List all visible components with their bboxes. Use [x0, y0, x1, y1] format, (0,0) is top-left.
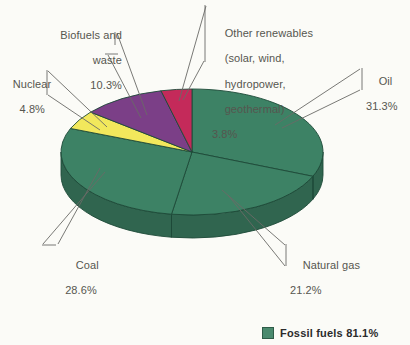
label-oil-line1: Oil: [379, 75, 393, 87]
label-biofuels-line1: Biofuels and: [60, 29, 122, 41]
label-renewables-pct: 3.8%: [212, 128, 342, 141]
label-coal-pct: 28.6%: [46, 284, 116, 297]
label-nuclear-line1: Nuclear: [13, 78, 52, 90]
legend: Fossil fuels 81.1%: [262, 327, 378, 339]
label-coal: Coal 28.6%: [46, 246, 116, 322]
label-gas-pct: 21.2%: [290, 284, 380, 297]
legend-swatch-fossil-fuels: [262, 327, 274, 339]
label-natural-gas: Natural gas 21.2%: [290, 246, 380, 322]
label-renewables-l2: (solar, wind,: [225, 52, 285, 64]
label-other-renewables: Other renewables Other renewables (solar…: [212, 2, 342, 166]
label-nuclear-pct: 4.8%: [0, 103, 45, 116]
pie-chart-figure: Biofuels and waste 10.3% Nuclear 4.8% Ot…: [0, 0, 410, 345]
label-coal-line1: Coal: [76, 259, 99, 271]
label-gas-line1: Natural gas: [303, 259, 360, 271]
label-oil-pct: 31.3%: [366, 100, 410, 113]
label-renewables-l3: hydropower,: [225, 78, 286, 90]
label-renewables-l4: geothermal): [225, 103, 285, 115]
label-renewables-l1: Other renewables: [225, 27, 313, 39]
label-nuclear: Nuclear 4.8%: [0, 65, 45, 141]
label-biofuels-line2: waste: [93, 54, 122, 66]
label-biofuels-and-waste: Biofuels and waste 10.3%: [32, 16, 122, 117]
label-oil: Oil 31.3%: [366, 62, 410, 138]
legend-label-fossil-fuels: Fossil fuels 81.1%: [280, 327, 378, 339]
